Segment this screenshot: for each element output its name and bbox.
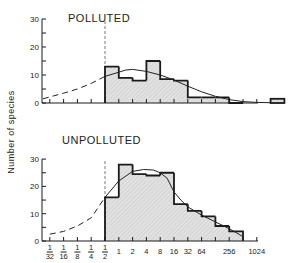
x-tick-label-numerator: 1	[75, 243, 79, 252]
polluted-y-tick-label: 10	[30, 71, 39, 80]
species-abundance-chart: Number of species POLLUTED 0102030 UNPOL…	[0, 0, 294, 263]
polluted-histogram-bar	[160, 61, 174, 79]
x-tick-label-denominator: 32	[46, 252, 54, 261]
polluted-title: POLLUTED	[68, 12, 130, 24]
x-tick-label: 4	[144, 247, 148, 256]
x-tick-label-denominator: 16	[59, 252, 67, 261]
unpolluted-y-tick-label: 20	[30, 182, 39, 191]
x-tick-label: 256	[223, 247, 236, 256]
unpolluted-y-tick-label: 10	[30, 210, 39, 219]
polluted-y-tick-label: 30	[30, 15, 39, 24]
polluted-y-tick-label: 0	[35, 99, 40, 108]
unpolluted-panel: UNPOLLUTED 01020301321161814121248163264…	[30, 134, 265, 261]
x-tick-label: 32	[184, 247, 192, 256]
x-tick-label-denominator: 8	[75, 252, 79, 261]
unpolluted-histogram-bar	[215, 216, 229, 226]
x-tick-label: 1024	[248, 247, 265, 256]
x-tick-label-numerator: 1	[103, 243, 107, 252]
x-tick-label-denominator: 2	[103, 252, 107, 261]
unpolluted-histogram-bar	[146, 174, 160, 175]
polluted-histogram-bar	[119, 67, 133, 78]
x-tick-label-numerator: 1	[62, 243, 66, 252]
x-tick-label: 64	[197, 247, 205, 256]
x-tick-label: 2	[131, 247, 135, 256]
unpolluted-y-tick-label: 0	[35, 237, 40, 246]
x-tick-label-denominator: 4	[89, 252, 93, 261]
polluted-panel: POLLUTED 0102030	[30, 12, 284, 108]
x-tick-label-numerator: 1	[89, 243, 93, 252]
polluted-histogram-bar	[133, 78, 147, 81]
x-tick-label: 8	[158, 247, 162, 256]
x-tick-label: 16	[170, 247, 178, 256]
x-tick-label-numerator: 1	[48, 243, 52, 252]
unpolluted-y-tick-label: 30	[30, 155, 39, 164]
polluted-fitted-curve-extrapolated	[43, 76, 105, 98]
unpolluted-fitted-curve-extrapolated	[50, 197, 105, 234]
x-tick-label: 1	[117, 247, 121, 256]
polluted-y-tick-label: 20	[30, 43, 39, 52]
unpolluted-title: UNPOLLUTED	[62, 134, 141, 146]
y-axis-label: Number of species	[6, 90, 16, 174]
